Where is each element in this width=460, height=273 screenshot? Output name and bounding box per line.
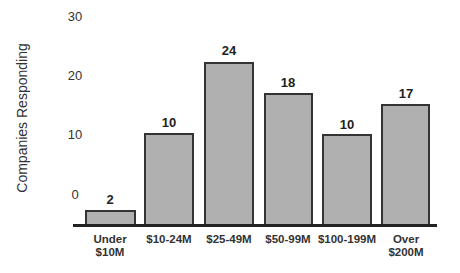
y-axis-label: Companies Responding	[14, 43, 30, 192]
bar-25-49m	[204, 62, 254, 225]
bar-over-200m	[381, 104, 430, 225]
value-label-under-10m: 2	[85, 192, 135, 207]
bar-100-199m	[322, 134, 372, 225]
value-label-100-199m: 10	[322, 117, 372, 132]
x-label-over-200m: Over $200M	[371, 233, 441, 259]
value-label-25-49m: 24	[204, 43, 254, 58]
bar-50-99m	[264, 93, 313, 225]
value-label-over-200m: 17	[381, 86, 431, 101]
bar-under-10m	[85, 210, 136, 225]
y-tick-10: 10	[60, 127, 90, 142]
y-tick-20: 20	[60, 68, 90, 83]
bar-10-24m	[144, 133, 194, 225]
value-label-10-24m: 10	[144, 115, 194, 130]
y-tick-30: 30	[60, 9, 90, 24]
x-axis-line	[73, 224, 437, 227]
value-label-50-99m: 18	[263, 75, 313, 90]
